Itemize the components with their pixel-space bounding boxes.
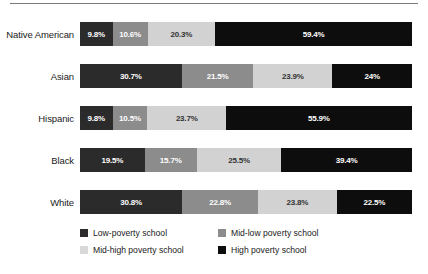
bar-segment-high-poverty[interactable]: 22.5% <box>337 190 412 214</box>
bar-segment-low-poverty[interactable]: 19.5% <box>80 148 145 172</box>
bar-segment-mid-high-poverty[interactable]: 25.5% <box>197 148 282 172</box>
legend-label: Mid-low poverty school <box>231 228 318 238</box>
chart-legend: Low-poverty school Mid-low poverty schoo… <box>0 228 428 268</box>
bar-segment-mid-low-poverty[interactable]: 22.8% <box>182 190 258 214</box>
category-label-hispanic: Hispanic <box>0 113 80 124</box>
bar-segment-mid-low-poverty[interactable]: 15.7% <box>145 148 197 172</box>
legend-swatch-icon <box>218 246 226 254</box>
chart-row-white: White 30.8% 22.8% 23.8% 22.5% <box>0 190 428 214</box>
chart-row-native-american: Native American 9.8% 10.6% 20.3% 59.4% <box>0 22 428 46</box>
chart-row-black: Black 19.5% 15.7% 25.5% 39.4% <box>0 148 428 172</box>
bar-track-asian: 30.7% 21.5% 23.9% 24% <box>80 64 412 88</box>
legend-swatch-icon <box>218 229 226 237</box>
category-label-native-american: Native American <box>0 29 80 40</box>
legend-swatch-icon <box>80 246 88 254</box>
bar-track-hispanic: 9.8% 10.5% 23.7% 55.9% <box>80 106 412 130</box>
legend-label: Mid-high poverty school <box>93 245 184 255</box>
bar-segment-high-poverty[interactable]: 55.9% <box>226 106 412 130</box>
bar-segment-mid-high-poverty[interactable]: 23.9% <box>253 64 332 88</box>
bar-segment-high-poverty[interactable]: 24% <box>332 64 412 88</box>
bar-track-black: 19.5% 15.7% 25.5% 39.4% <box>80 148 412 172</box>
legend-swatch-icon <box>80 229 88 237</box>
legend-label: Low-poverty school <box>93 228 167 238</box>
legend-label: High poverty school <box>231 245 306 255</box>
bar-segment-mid-low-poverty[interactable]: 10.6% <box>113 22 148 46</box>
top-divider-rule <box>10 3 418 4</box>
bar-segment-low-poverty[interactable]: 9.8% <box>80 22 113 46</box>
bar-segment-high-poverty[interactable]: 39.4% <box>281 148 412 172</box>
bar-segment-mid-high-poverty[interactable]: 23.8% <box>258 190 337 214</box>
bar-segment-mid-low-poverty[interactable]: 21.5% <box>182 64 253 88</box>
category-label-asian: Asian <box>0 71 80 82</box>
stacked-bar-chart: Native American 9.8% 10.6% 20.3% 59.4% A… <box>0 14 428 222</box>
bar-track-white: 30.8% 22.8% 23.8% 22.5% <box>80 190 412 214</box>
category-label-white: White <box>0 197 80 208</box>
legend-item-mid-low-poverty[interactable]: Mid-low poverty school <box>218 228 318 238</box>
bar-segment-mid-high-poverty[interactable]: 23.7% <box>147 106 226 130</box>
bar-segment-high-poverty[interactable]: 59.4% <box>215 22 412 46</box>
chart-row-asian: Asian 30.7% 21.5% 23.9% 24% <box>0 64 428 88</box>
bar-segment-mid-low-poverty[interactable]: 10.5% <box>113 106 148 130</box>
bar-track-native-american: 9.8% 10.6% 20.3% 59.4% <box>80 22 412 46</box>
category-label-black: Black <box>0 155 80 166</box>
chart-row-hispanic: Hispanic 9.8% 10.5% 23.7% 55.9% <box>0 106 428 130</box>
legend-item-high-poverty[interactable]: High poverty school <box>218 245 306 255</box>
bar-segment-low-poverty[interactable]: 9.8% <box>80 106 113 130</box>
bar-segment-low-poverty[interactable]: 30.7% <box>80 64 182 88</box>
bar-segment-low-poverty[interactable]: 30.8% <box>80 190 182 214</box>
bar-segment-mid-high-poverty[interactable]: 20.3% <box>148 22 215 46</box>
legend-item-low-poverty[interactable]: Low-poverty school <box>80 228 167 238</box>
legend-item-mid-high-poverty[interactable]: Mid-high poverty school <box>80 245 184 255</box>
